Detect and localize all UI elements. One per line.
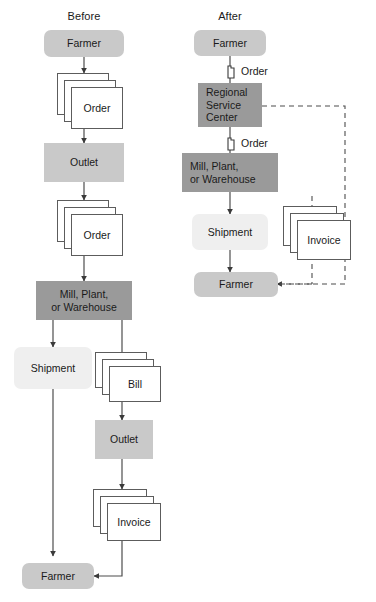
doc-stack-label: Bill xyxy=(109,366,161,402)
before-doc-stack-order-1: Order xyxy=(57,73,127,130)
after-node-regional-service-center: Regional Service Center xyxy=(198,83,262,127)
before-doc-stack-order-2: Order xyxy=(57,200,127,257)
mill-label-line-2: or Warehouse xyxy=(190,173,256,186)
before-doc-stack-invoice: Invoice xyxy=(93,489,169,541)
after-edge-label-order-to-mill: Order xyxy=(241,137,268,149)
mill-label-line-1: Mill, Plant, xyxy=(190,160,238,173)
before-node-outlet-1: Outlet xyxy=(44,143,124,182)
doc-stack-label: Invoice xyxy=(107,503,161,541)
after-node-farmer-top: Farmer xyxy=(194,30,266,56)
rsc-label-line-3: Center xyxy=(206,111,238,124)
rsc-label-line-2: Service xyxy=(206,99,241,112)
edge-invoice-to-farmer xyxy=(94,539,122,576)
after-node-shipment: Shipment xyxy=(192,214,268,250)
mill-label-line-1: Mill, Plant, xyxy=(60,288,108,301)
doc-stack-label: Order xyxy=(71,214,123,256)
flowchart-diagram: Before After Farmer Order Outlet Order M… xyxy=(0,0,376,602)
doc-stack-label: Invoice xyxy=(297,220,351,260)
before-node-farmer-bottom: Farmer xyxy=(22,563,94,589)
after-node-farmer-bottom: Farmer xyxy=(194,272,278,297)
before-node-mill-plant-warehouse: Mill, Plant, or Warehouse xyxy=(36,281,132,320)
after-doc-stack-invoice: Invoice xyxy=(283,206,359,264)
after-edge-label-order-to-rsc: Order xyxy=(241,65,268,77)
rsc-label-line-1: Regional xyxy=(206,86,247,99)
doc-stack-label: Order xyxy=(71,87,123,129)
after-node-mill-plant-warehouse: Mill, Plant, or Warehouse xyxy=(182,153,278,192)
before-node-farmer-top: Farmer xyxy=(44,30,124,57)
before-node-outlet-2: Outlet xyxy=(95,420,153,459)
before-node-shipment: Shipment xyxy=(14,347,92,389)
mill-label-line-2: or Warehouse xyxy=(51,301,117,314)
before-doc-stack-bill: Bill xyxy=(95,352,165,402)
